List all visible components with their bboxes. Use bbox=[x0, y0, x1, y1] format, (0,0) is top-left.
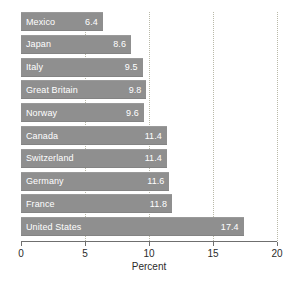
plot-area: Mexico6.4Japan8.6Italy9.5Great Britain9.… bbox=[21, 12, 277, 241]
bar-value-label: 17.4 bbox=[221, 222, 239, 232]
bar-category-label: Canada bbox=[26, 131, 58, 141]
bar-row[interactable]: United States17.4 bbox=[21, 217, 277, 236]
bar[interactable]: Germany11.6 bbox=[21, 172, 169, 191]
bar-value-label: 9.8 bbox=[129, 85, 142, 95]
bar-row[interactable]: Great Britain9.8 bbox=[21, 80, 277, 99]
bar-value-label: 11.4 bbox=[145, 153, 162, 163]
bar[interactable]: Norway9.6 bbox=[21, 103, 144, 122]
bar-value-label: 9.5 bbox=[125, 62, 138, 72]
bar-value-label: 11.4 bbox=[145, 131, 162, 141]
x-tick-20 bbox=[277, 242, 278, 246]
bar-row[interactable]: France11.8 bbox=[21, 194, 277, 213]
bar-row[interactable]: Norway9.6 bbox=[21, 103, 277, 122]
x-tick-label-15: 15 bbox=[207, 248, 218, 259]
bar-value-label: 11.6 bbox=[147, 176, 164, 186]
bar-row[interactable]: Switzerland11.4 bbox=[21, 149, 277, 168]
bar-category-label: Mexico bbox=[26, 17, 55, 27]
bar-value-label: 8.6 bbox=[113, 39, 126, 49]
x-axis-title: Percent bbox=[21, 261, 277, 272]
bar[interactable]: Switzerland11.4 bbox=[21, 149, 167, 168]
bar[interactable]: Japan8.6 bbox=[21, 35, 131, 54]
x-tick-10 bbox=[149, 242, 150, 246]
bar-category-label: Norway bbox=[26, 108, 57, 118]
bar-value-label: 11.8 bbox=[150, 199, 167, 209]
x-axis: 05101520 bbox=[21, 241, 277, 242]
bar-value-label: 9.6 bbox=[126, 108, 139, 118]
bar[interactable]: Italy9.5 bbox=[21, 58, 143, 77]
bar[interactable]: France11.8 bbox=[21, 194, 172, 213]
x-tick-label-0: 0 bbox=[18, 248, 24, 259]
bar-row[interactable]: Japan8.6 bbox=[21, 35, 277, 54]
bar[interactable]: Canada11.4 bbox=[21, 126, 167, 145]
bar[interactable]: Great Britain9.8 bbox=[21, 80, 146, 99]
bar[interactable]: United States17.4 bbox=[21, 217, 244, 236]
bar-row[interactable]: Canada11.4 bbox=[21, 126, 277, 145]
bar-row[interactable]: Germany11.6 bbox=[21, 172, 277, 191]
bar-value-label: 6.4 bbox=[85, 17, 98, 27]
bar-category-label: Germany bbox=[26, 176, 64, 186]
bar-row[interactable]: Mexico6.4 bbox=[21, 12, 277, 31]
bar-category-label: United States bbox=[26, 222, 81, 232]
bar-category-label: Great Britain bbox=[26, 85, 78, 95]
bar-category-label: Japan bbox=[26, 39, 51, 49]
bar[interactable]: Mexico6.4 bbox=[21, 12, 103, 31]
bar-category-label: Italy bbox=[26, 62, 43, 72]
x-tick-label-20: 20 bbox=[271, 248, 282, 259]
x-tick-0 bbox=[21, 242, 22, 246]
x-tick-5 bbox=[85, 242, 86, 246]
bar-chart: Mexico6.4Japan8.6Italy9.5Great Britain9.… bbox=[0, 0, 297, 281]
clipped-title-artifact bbox=[26, 0, 106, 3]
x-tick-label-5: 5 bbox=[82, 248, 88, 259]
gridline-20 bbox=[277, 12, 278, 241]
bar-row[interactable]: Italy9.5 bbox=[21, 58, 277, 77]
x-tick-15 bbox=[213, 242, 214, 246]
x-tick-label-10: 10 bbox=[143, 248, 154, 259]
bar-category-label: France bbox=[26, 199, 55, 209]
bar-category-label: Switzerland bbox=[26, 153, 74, 163]
